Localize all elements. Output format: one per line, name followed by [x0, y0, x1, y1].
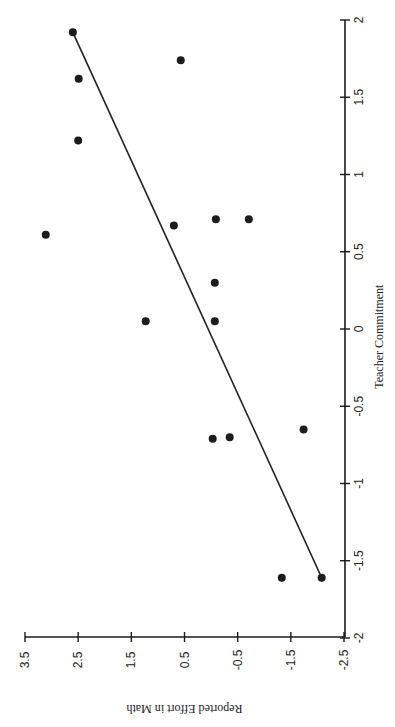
data-point [212, 215, 220, 223]
data-point [300, 425, 308, 433]
data-point [226, 433, 234, 441]
x-tick-label: -2 [352, 632, 366, 643]
data-points [42, 28, 326, 581]
data-point [209, 435, 217, 443]
x-tick-label: -1.5 [352, 550, 366, 571]
data-point [211, 317, 219, 325]
y-tick-label: -1.5 [284, 649, 298, 670]
x-tick-label: 1 [352, 171, 366, 178]
data-point [177, 56, 185, 64]
x-tick-label: 0.5 [352, 243, 366, 260]
data-point [69, 28, 77, 36]
tick-labels: -2-1.5-1-0.500.511.52-2.5-1.5-0.50.51.52… [18, 16, 366, 670]
x-tick-label: 0 [352, 325, 366, 332]
data-point [318, 574, 326, 582]
data-point [75, 75, 83, 83]
data-point [74, 137, 82, 145]
y-tick-label: 1.5 [124, 651, 138, 668]
x-tick-label: 1.5 [352, 89, 366, 106]
y-tick-label: 2.5 [71, 651, 85, 668]
data-point [211, 279, 219, 287]
x-axis-title: Teacher Commitment [372, 284, 386, 389]
y-tick-label: -2.5 [337, 649, 351, 670]
data-point [278, 574, 286, 582]
y-tick-label: -0.5 [231, 649, 245, 670]
regression-line [73, 32, 322, 577]
x-tick-label: -1 [352, 478, 366, 489]
axes [25, 20, 350, 642]
data-point [142, 317, 150, 325]
data-point [245, 215, 253, 223]
scatter-chart: -2-1.5-1-0.500.511.52-2.5-1.5-0.50.51.52… [0, 0, 395, 727]
data-point [170, 221, 178, 229]
data-point [42, 231, 50, 239]
y-tick-label: 0.5 [178, 651, 192, 668]
y-tick-label: 3.5 [18, 651, 32, 668]
x-tick-label: 2 [352, 16, 366, 23]
y-axis-title: Reported Effort in Math [126, 702, 242, 716]
x-tick-label: -0.5 [352, 396, 366, 417]
